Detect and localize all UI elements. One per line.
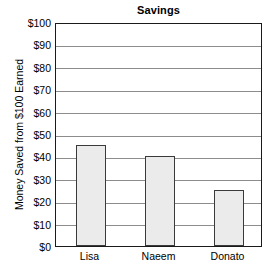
gridline bbox=[56, 91, 261, 92]
y-axis-tick-label: $70 bbox=[3, 85, 55, 96]
gridline bbox=[56, 113, 261, 114]
y-axis-tick-label: $30 bbox=[3, 174, 55, 185]
y-axis-tick-label: $0 bbox=[3, 242, 55, 253]
x-axis-tick-labels: LisaNaeemDonato bbox=[55, 250, 262, 270]
y-axis-tick-label: $50 bbox=[3, 130, 55, 141]
bar bbox=[214, 190, 244, 246]
y-axis-tick-label: $20 bbox=[3, 197, 55, 208]
gridline bbox=[56, 46, 261, 47]
x-axis-tick-label: Donato bbox=[211, 250, 245, 263]
bar bbox=[76, 145, 106, 246]
chart-title: Savings bbox=[55, 4, 262, 17]
x-axis-tick-label: Naeem bbox=[142, 250, 176, 263]
bar bbox=[145, 156, 175, 246]
bar-chart: Savings Money Saved from $100 Earned $0$… bbox=[0, 0, 274, 272]
y-axis-tick-label: $90 bbox=[3, 40, 55, 51]
y-axis-tick-label: $80 bbox=[3, 62, 55, 73]
plot-area bbox=[55, 23, 262, 247]
x-axis-tick-label: Lisa bbox=[80, 250, 99, 263]
gridline bbox=[56, 136, 261, 137]
y-axis-tick-label: $40 bbox=[3, 152, 55, 163]
y-axis-tick-labels: $0$10$20$30$40$50$60$70$80$90$100 bbox=[0, 23, 55, 247]
gridline bbox=[56, 68, 261, 69]
y-axis-tick-label: $100 bbox=[3, 18, 55, 29]
y-axis-tick-label: $10 bbox=[3, 219, 55, 230]
y-axis-tick-label: $60 bbox=[3, 107, 55, 118]
